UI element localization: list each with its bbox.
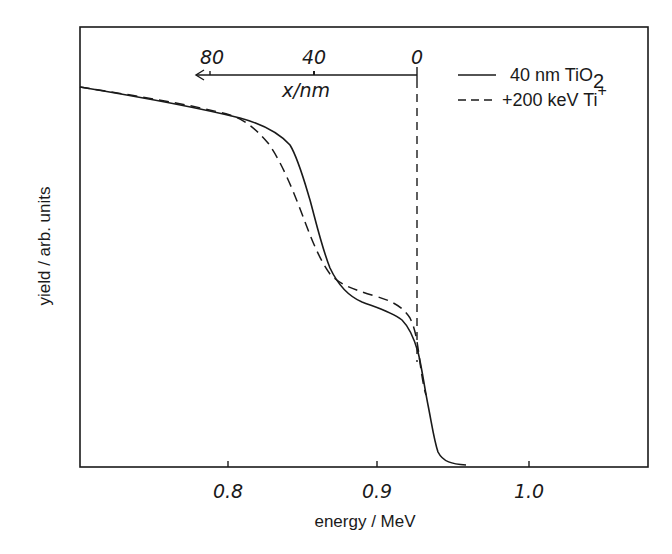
x-tick-label-1.0: 1.0 xyxy=(514,480,544,502)
depth-tick-80: 80 xyxy=(200,46,224,68)
x-tick-label-0.9: 0.9 xyxy=(362,480,392,502)
legend-item-tio2: 40 nm TiO2 xyxy=(510,65,604,92)
x-axis-ticks xyxy=(228,461,529,467)
series-solid-tio2 xyxy=(80,87,466,465)
legend: 40 nm TiO2 +200 keV Ti+ xyxy=(458,65,607,110)
y-axis-title: yield / arb. units xyxy=(35,186,54,305)
x-axis-title: energy / MeV xyxy=(314,512,416,531)
series-dashed-ti-implanted xyxy=(80,87,426,395)
x-tick-label-0.8: 0.8 xyxy=(213,480,243,502)
chart: 0.8 0.9 1.0 energy / MeV yield / arb. un… xyxy=(0,0,672,554)
depth-axis-title: x/nm xyxy=(281,79,330,101)
legend-item-ti-ion: +200 keV Ti+ xyxy=(502,82,607,110)
depth-tick-0: 0 xyxy=(411,46,423,68)
depth-tick-40: 40 xyxy=(302,46,326,68)
